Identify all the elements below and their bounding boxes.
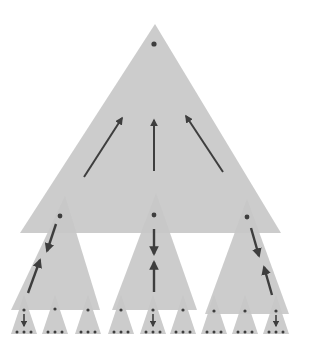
leaf-bottom-dot: [80, 331, 83, 334]
leaf-bottom-dot: [182, 331, 185, 334]
leaf-node-dot: [151, 308, 154, 311]
leaf-bottom-dot: [127, 331, 130, 334]
leaf-bottom-dot: [206, 331, 209, 334]
leaf-node-dot: [181, 308, 184, 311]
leaf-bottom-dot: [251, 331, 254, 334]
leaf-bottom-dot: [23, 331, 26, 334]
leaf-bottom-dot: [213, 331, 216, 334]
leaf-bottom-dot: [268, 331, 271, 334]
leaf-bottom-dot: [145, 331, 148, 334]
leaf-bottom-dot: [220, 331, 223, 334]
leaf-bottom-dot: [30, 331, 33, 334]
tree-diagram: [0, 0, 310, 350]
leaf-bottom-dot: [94, 331, 97, 334]
leaf-bottom-dot: [113, 331, 116, 334]
leaf-bottom-dot: [54, 331, 57, 334]
leaf-bottom-dot: [275, 331, 278, 334]
leaf-node-dot: [212, 309, 215, 312]
leaf-bottom-dot: [244, 331, 247, 334]
root-triangle: [20, 24, 281, 233]
leaf-bottom-dot: [189, 331, 192, 334]
leaf-node-dot: [274, 309, 277, 312]
leaf-bottom-dot: [87, 331, 90, 334]
leaf-bottom-dot: [237, 331, 240, 334]
root-triangle-group: [20, 24, 281, 233]
leaf-node-dot: [22, 308, 25, 311]
leaf-bottom-dot: [120, 331, 123, 334]
leaf-bottom-dot: [61, 331, 64, 334]
leaf-bottom-dot: [152, 331, 155, 334]
leaf-bottom-dot: [16, 331, 19, 334]
child-node-dot-1: [58, 214, 63, 219]
root-node-dot: [151, 41, 156, 46]
leaf-bottom-dot: [159, 331, 162, 334]
leaf-node-dot: [53, 307, 56, 310]
leaf-bottom-dot: [282, 331, 285, 334]
child-node-dot-3: [245, 215, 250, 220]
child-node-dot-2: [152, 213, 157, 218]
leaf-bottom-dot: [47, 331, 50, 334]
leaf-node-dot: [86, 308, 89, 311]
leaf-bottom-dot: [175, 331, 178, 334]
leaf-node-dot: [243, 309, 246, 312]
leaf-node-dot: [119, 308, 122, 311]
